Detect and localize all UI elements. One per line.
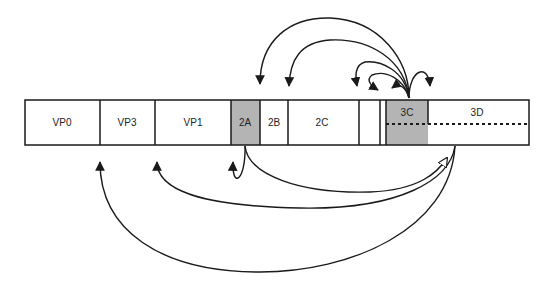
arrow-to-vp0 [100,146,455,272]
label-3d: 3D [471,107,484,118]
label-vp1: VP1 [184,117,203,128]
label-vp0: VP0 [53,117,72,128]
label-2c: 2C [316,117,329,128]
label-2a: 2A [239,117,252,128]
segment-dividers [100,100,428,145]
arrow-3c-to-3d [409,72,430,98]
label-3c: 3C [401,107,414,118]
arrow-2a-to-3d [245,146,447,192]
arrow-to-vp3 [157,146,455,208]
arrow-3c-to-2a [260,18,409,98]
arrow-2a-loop [233,146,245,178]
arrow-3c-to-blank1 [356,62,409,98]
memory-layout-diagram: VP0 VP3 VP1 2A 2B 2C 3C 3D [0,0,552,285]
label-vp3: VP3 [118,117,137,128]
label-2b: 2B [268,117,281,128]
